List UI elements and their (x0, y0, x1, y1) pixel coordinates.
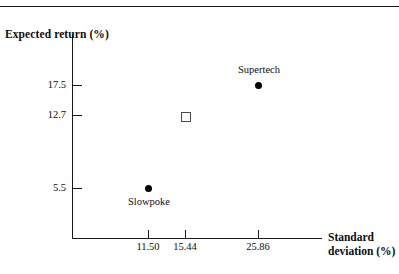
y-tick-label-wrap-17-5: 17.5 (22, 79, 66, 91)
top-divider-rule (0, 6, 399, 7)
x-axis-title: Standard deviation (%) (328, 231, 398, 258)
x-tick-mark-11-50 (148, 230, 149, 238)
y-tick-mark-17-5 (73, 85, 82, 86)
y-axis-title: Expected return (%) (5, 28, 109, 40)
data-point-slowpoke (145, 185, 152, 192)
x-tick-label-25-86: 25.86 (228, 241, 288, 252)
data-label-slowpoke: Slowpoke (104, 196, 194, 207)
y-tick-label-17-5: 17.5 (26, 79, 66, 90)
data-point-supertech (255, 82, 262, 89)
x-tick-label-15-44: 15.44 (155, 241, 215, 252)
x-tick-mark-15-44 (185, 230, 186, 238)
y-tick-mark-12-7 (73, 115, 82, 116)
y-axis-line (72, 34, 73, 239)
y-tick-label-5-5: 5.5 (26, 182, 66, 193)
data-label-supertech: Supertech (214, 64, 304, 75)
x-tick-mark-25-86 (258, 230, 259, 238)
y-tick-label-12-7: 12.7 (26, 109, 66, 120)
x-axis-title-line2: deviation (%) (328, 245, 398, 259)
scatter-plot-figure: Expected return (%) Standard deviation (… (0, 0, 399, 274)
x-axis-line (72, 238, 322, 239)
data-point-portfolio (181, 112, 191, 122)
y-tick-mark-5-5 (73, 188, 82, 189)
x-axis-title-line1: Standard (328, 231, 398, 245)
y-tick-label-wrap-12-7: 12.7 (22, 109, 66, 121)
y-tick-label-wrap-5-5: 5.5 (22, 182, 66, 194)
